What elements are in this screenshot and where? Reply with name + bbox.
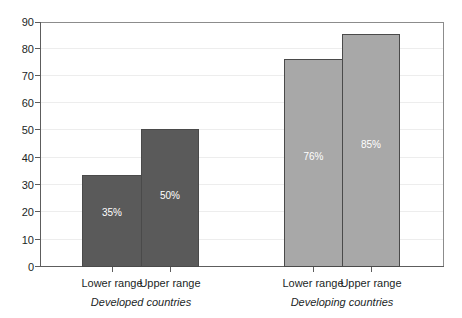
x-label-developed-upper-range: Upper range: [128, 277, 212, 289]
bar-developing-lower-range: [284, 59, 343, 267]
bar-developing-upper-range: [342, 34, 400, 267]
plot-area: 35% 50% 76% 85%: [0, 0, 462, 318]
group-label-developed-countries: Developed countries: [60, 296, 222, 308]
bar-chart: 90 80 70 60 50 40 30 20 10 0 35% 50% 76%…: [0, 0, 462, 318]
bar-label-developing-lower-range: 76%: [284, 152, 343, 162]
bar-label-developing-upper-range: 85%: [342, 140, 400, 150]
x-tick-mark-developing-lower: [313, 267, 314, 272]
group-label-developing-countries: Developing countries: [261, 296, 423, 308]
bar-label-developed-upper-range: 50%: [141, 191, 199, 201]
bar-label-developed-lower-range: 35%: [82, 208, 142, 218]
x-tick-mark-developed-lower: [112, 267, 113, 272]
x-tick-mark-developing-upper: [371, 267, 372, 272]
bar-developed-lower-range: [82, 175, 142, 267]
x-tick-mark-developed-upper: [170, 267, 171, 272]
x-label-developing-upper-range: Upper range: [329, 277, 413, 289]
